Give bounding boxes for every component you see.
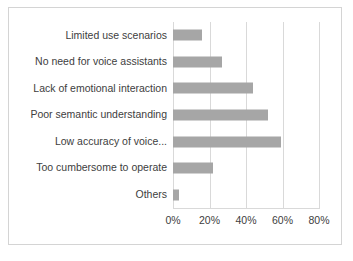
bar-rows: Limited use scenarios No need for voice …: [9, 22, 341, 208]
category-label: Lack of emotional interaction: [17, 83, 173, 95]
xtick-label-20: 20%: [199, 214, 220, 226]
category-label: Limited use scenarios: [17, 30, 173, 42]
bar-row: Others: [9, 181, 341, 208]
xtick-label-0: 0%: [165, 214, 180, 226]
bar-row: Poor semantic understanding: [9, 102, 341, 129]
x-axis-line: [173, 208, 320, 209]
bar-others: [173, 189, 179, 200]
category-label: Low accuracy of voice...: [17, 136, 173, 148]
category-label: Too cumbersome to operate: [17, 162, 173, 174]
bar-row: No need for voice assistants: [9, 49, 341, 76]
category-label: Others: [17, 189, 173, 201]
bar-row: Limited use scenarios: [9, 22, 341, 49]
bar-low-accuracy-of-voice: [173, 136, 281, 147]
bar-no-need-for-voice-assistants: [173, 56, 222, 67]
plot-area: Limited use scenarios No need for voice …: [9, 8, 341, 244]
xtick-label-60: 60%: [272, 214, 293, 226]
category-label: No need for voice assistants: [17, 56, 173, 68]
bar-row: Lack of emotional interaction: [9, 75, 341, 102]
bar-limited-use-scenarios: [173, 30, 202, 41]
bar-row: Too cumbersome to operate: [9, 155, 341, 182]
xtick-label-40: 40%: [235, 214, 256, 226]
xtick-label-80: 80%: [308, 214, 329, 226]
chart-container: Limited use scenarios No need for voice …: [8, 7, 342, 245]
bar-too-cumbersome-to-operate: [173, 163, 213, 174]
category-label: Poor semantic understanding: [17, 109, 173, 121]
bar-lack-of-emotional-interaction: [173, 83, 253, 94]
bar-row: Low accuracy of voice...: [9, 128, 341, 155]
bar-poor-semantic-understanding: [173, 109, 268, 120]
